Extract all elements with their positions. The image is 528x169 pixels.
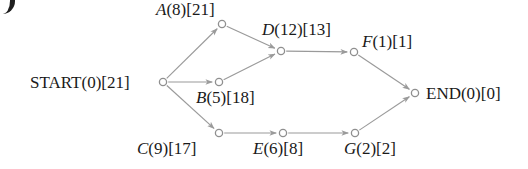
- node-circle-g[interactable]: [351, 129, 358, 136]
- node-duration-e: (6): [263, 139, 283, 158]
- node-id-d: D: [262, 20, 274, 39]
- node-id-g: G: [344, 139, 356, 158]
- node-slack-end: [0]: [481, 84, 501, 103]
- node-id-c: C: [137, 139, 148, 158]
- node-id-start: START: [30, 73, 81, 92]
- node-slack-a: [21]: [186, 0, 214, 19]
- node-duration-c: (9): [148, 139, 168, 158]
- edge-start-a: [167, 29, 217, 79]
- node-duration-end: (0): [461, 84, 481, 103]
- node-circle-end[interactable]: [411, 89, 418, 96]
- node-label-g: G(2)[2]: [344, 140, 396, 157]
- node-label-d: D(12)[13]: [262, 21, 331, 38]
- node-slack-e: [8]: [283, 139, 303, 158]
- node-duration-a: (8): [166, 0, 186, 19]
- node-label-end: END(0)[0]: [426, 85, 501, 102]
- node-label-f: F(1)[1]: [362, 33, 412, 50]
- node-label-b: B(5)[18]: [196, 89, 255, 106]
- node-slack-g: [2]: [376, 139, 396, 158]
- node-circle-f[interactable]: [350, 48, 357, 55]
- node-id-f: F: [362, 32, 372, 51]
- node-label-start: START(0)[21]: [30, 74, 130, 91]
- node-id-b: B: [196, 88, 206, 107]
- node-circle-d[interactable]: [277, 47, 284, 54]
- edge-f-end: [358, 55, 409, 89]
- node-duration-f: (1): [372, 32, 392, 51]
- node-slack-b: [18]: [226, 88, 254, 107]
- node-slack-f: [1]: [392, 32, 412, 51]
- node-duration-d: (12): [274, 20, 302, 39]
- node-circle-start[interactable]: [159, 78, 166, 85]
- node-label-c: C(9)[17]: [137, 140, 197, 157]
- node-slack-c: [17]: [168, 139, 196, 158]
- node-id-e: E: [253, 139, 263, 158]
- edge-b-d: [224, 54, 275, 80]
- edge-d-f: [286, 51, 347, 52]
- node-circle-b[interactable]: [215, 78, 222, 85]
- node-label-e: E(6)[8]: [253, 140, 303, 157]
- node-duration-b: (5): [206, 88, 226, 107]
- node-id-a: A: [156, 0, 166, 19]
- edge-g-end: [359, 97, 409, 130]
- node-duration-g: (2): [356, 139, 376, 158]
- node-circle-e[interactable]: [279, 129, 286, 136]
- node-label-a: A(8)[21]: [156, 1, 215, 18]
- node-duration-start: (0): [81, 73, 101, 92]
- node-circle-a[interactable]: [218, 20, 225, 27]
- node-slack-d: [13]: [303, 20, 331, 39]
- node-slack-start: [21]: [101, 73, 129, 92]
- node-id-end: END: [426, 84, 461, 103]
- node-circle-c[interactable]: [215, 129, 222, 136]
- network-diagram-figure: START(0)[21]A(8)[21]B(5)[18]C(9)[17]D(12…: [0, 0, 528, 169]
